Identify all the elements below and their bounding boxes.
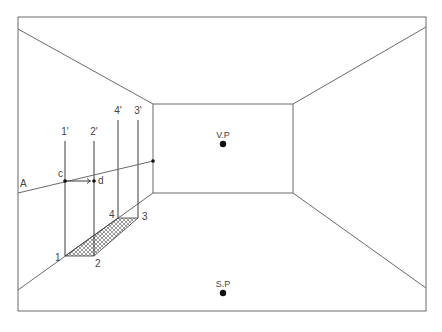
corner-line-top-right [293, 27, 426, 104]
point-c-dot [63, 179, 67, 183]
corner-line-bottom-right [293, 193, 426, 288]
vertical-label: 3' [134, 105, 142, 116]
perspective-diagram: 1'2'4'3' A c d 1234 V.P S.P [0, 0, 442, 332]
line-a-end-dot [151, 159, 155, 163]
vertical-label: 2' [90, 126, 98, 137]
point-d-label: d [98, 175, 104, 186]
corner-label-3: 3 [142, 211, 148, 222]
line-a [18, 161, 153, 193]
vanishing-point-dot [220, 141, 226, 147]
outer-frame [18, 17, 426, 311]
corner-label-4: 4 [109, 209, 115, 220]
line-a-label: A [20, 178, 27, 189]
vanishing-point-label: V.P [216, 130, 230, 140]
back-wall [153, 104, 293, 193]
corner-label-1: 1 [55, 252, 61, 263]
corner-line-top-left [18, 29, 153, 104]
vertical-label: 1' [61, 126, 69, 137]
station-point-dot [220, 290, 226, 296]
floor-rectangle-hatched [65, 218, 138, 256]
vertical-label: 4' [114, 105, 122, 116]
point-c-label: c [58, 168, 63, 179]
station-point-label: S.P [216, 279, 231, 289]
corner-label-2: 2 [95, 258, 101, 269]
point-d-dot [92, 179, 96, 183]
